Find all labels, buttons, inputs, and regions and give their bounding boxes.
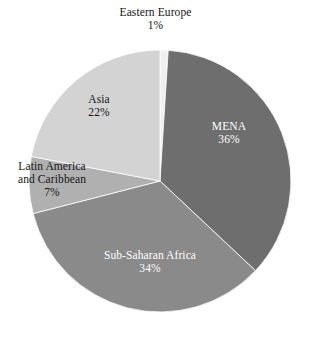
slice-label-asia-value: 22% xyxy=(58,106,140,119)
slice-label-asia: Asia 22% xyxy=(58,93,140,119)
slice-label-latin-america: Latin America and Caribbean 7% xyxy=(0,160,104,199)
pie-chart: Eastern Europe 1% MENA 36% Sub-Saharan A… xyxy=(0,0,311,347)
slice-label-asia-name: Asia xyxy=(58,93,140,106)
slice-label-eastern-europe-value: 1% xyxy=(0,19,311,32)
slice-label-sub-saharan-africa: Sub-Saharan Africa 34% xyxy=(80,249,220,275)
slice-label-latin-america-value: 7% xyxy=(0,186,104,199)
slice-label-eastern-europe-name: Eastern Europe xyxy=(0,6,311,19)
slice-label-latin-america-line2: and Caribbean xyxy=(0,173,104,186)
slice-label-sub-saharan-africa-value: 34% xyxy=(80,262,220,275)
slice-label-eastern-europe: Eastern Europe 1% xyxy=(0,6,311,32)
slice-label-mena-value: 36% xyxy=(187,133,271,146)
slice-label-sub-saharan-africa-name: Sub-Saharan Africa xyxy=(80,249,220,262)
slice-label-mena-name: MENA xyxy=(187,120,271,133)
slice-label-mena: MENA 36% xyxy=(187,120,271,146)
slice-label-latin-america-line1: Latin America xyxy=(0,160,104,173)
